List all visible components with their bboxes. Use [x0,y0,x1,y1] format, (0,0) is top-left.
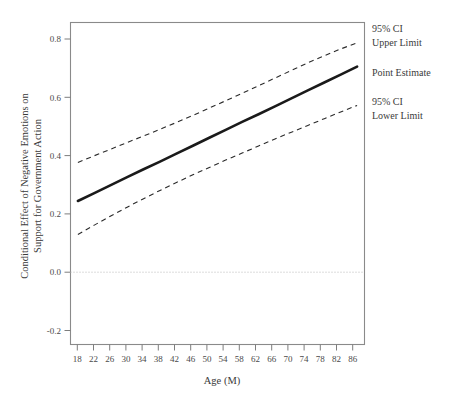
y-axis-title: Conditional Effect of Negative Emotions … [19,92,43,278]
y-tick-label: 0.2 [50,209,61,219]
x-axis-tick-labels: 18 22 26 30 34 38 42 46 50 54 58 62 66 7… [73,354,358,364]
x-axis-title: Age (M) [204,375,241,387]
y-axis-ticks [65,39,71,331]
x-tick-label: 74 [300,354,310,364]
y-tick-label: 0.4 [50,151,62,161]
ci-upper-annotation-line-2: Upper Limit [372,37,422,48]
x-tick-label: 86 [348,354,358,364]
y-axis-title-line-1: Conditional Effect of Negative Emotions … [19,92,30,278]
x-tick-label: 34 [138,354,148,364]
x-tick-label: 22 [89,354,98,364]
ci-lower-annotation: 95% CI Lower Limit [372,96,423,121]
y-axis-tick-labels: 0.8 0.6 0.4 0.2 0.0 -0.2 [47,34,62,336]
x-tick-label: 58 [235,354,245,364]
ci-lower-annotation-line-1: 95% CI [372,96,403,107]
x-tick-label: 78 [316,354,326,364]
x-tick-label: 70 [283,354,293,364]
x-tick-label: 42 [170,354,179,364]
x-axis-ticks [77,345,352,351]
ci-upper-annotation: 95% CI Upper Limit [372,23,422,48]
x-tick-label: 26 [105,354,115,364]
series-point-estimate-line [78,67,357,201]
point-estimate-annotation-line-1: Point Estimate [372,67,431,78]
point-estimate-annotation: Point Estimate [372,67,431,78]
x-tick-label: 82 [332,354,341,364]
x-tick-label: 54 [219,354,229,364]
ci-lower-annotation-line-2: Lower Limit [372,110,423,121]
x-tick-label: 18 [73,354,83,364]
y-axis-title-line-2: Support for Government Action [32,118,43,253]
x-tick-label: 38 [154,354,164,364]
series-ci-upper-line [78,43,357,163]
series-ci-lower-line [78,105,357,234]
data-series-group [78,43,357,235]
x-tick-label: 50 [202,354,212,364]
ci-upper-annotation-line-1: 95% CI [372,23,403,34]
y-tick-label: -0.2 [47,326,61,336]
y-tick-label: 0.8 [50,34,62,44]
conditional-effect-line-chart: 0.8 0.6 0.4 0.2 0.0 -0.2 [0,0,455,401]
x-tick-label: 66 [267,354,277,364]
chart-figure: 0.8 0.6 0.4 0.2 0.0 -0.2 [0,0,455,401]
x-tick-label: 46 [186,354,196,364]
y-tick-label: 0.6 [50,93,62,103]
y-tick-label: 0.0 [50,267,62,277]
x-tick-label: 30 [121,354,131,364]
x-tick-label: 62 [251,354,260,364]
